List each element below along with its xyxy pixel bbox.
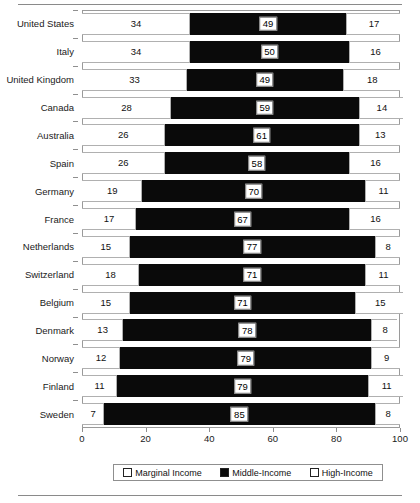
- legend-swatch-open-icon: [310, 468, 319, 477]
- bar-segment-high-income: 14: [359, 97, 404, 119]
- category-label: Belgium: [0, 292, 78, 314]
- legend-label: High-Income: [322, 468, 373, 478]
- category-label: Italy: [0, 41, 78, 63]
- category-label: Norway: [0, 347, 78, 369]
- bar-segment-middle-income: 61: [165, 124, 359, 146]
- category-tick: [73, 233, 78, 234]
- bar-value-marginal-income: 7: [90, 409, 95, 419]
- category-label: France: [0, 208, 78, 230]
- bar-segment-middle-income: 71: [130, 292, 356, 314]
- bar-segment-high-income: 11: [368, 375, 403, 397]
- bar-value-marginal-income: 15: [101, 298, 112, 308]
- bar-value-middle-income: 85: [231, 407, 249, 422]
- bar-value-high-income: 9: [384, 354, 389, 364]
- bar-value-middle-income: 78: [239, 323, 257, 338]
- bar-value-marginal-income: 11: [95, 381, 105, 391]
- bar-value-marginal-income: 26: [118, 159, 129, 169]
- bar-segment-marginal-income: 34: [82, 41, 190, 63]
- bar-segment-high-income: 15: [355, 292, 403, 314]
- chart-legend: Marginal IncomeMiddle-IncomeHigh-Income: [113, 464, 383, 481]
- bar-value-middle-income: 77: [243, 240, 261, 255]
- bar-value-high-income: 13: [375, 131, 386, 141]
- category-tick: [73, 38, 78, 39]
- bar-value-marginal-income: 17: [104, 214, 115, 224]
- bar-value-high-income: 18: [367, 75, 378, 85]
- category-tick: [73, 10, 78, 11]
- value-axis-tick: [273, 428, 274, 432]
- category-label: Finland: [0, 375, 78, 397]
- table-row: 197011: [82, 180, 400, 202]
- bar-segment-high-income: 8: [375, 403, 400, 425]
- bar-segment-marginal-income: 26: [82, 152, 165, 174]
- bar-segment-middle-income: 59: [171, 97, 359, 119]
- category-label: Germany: [0, 180, 78, 202]
- bar-value-high-income: 15: [375, 298, 386, 308]
- category-tick: [73, 317, 78, 318]
- bar-value-high-income: 16: [370, 47, 381, 57]
- bar-segment-high-income: 13: [359, 124, 400, 146]
- category-tick: [73, 205, 78, 206]
- bar-segment-high-income: 18: [343, 69, 400, 91]
- bar-segment-middle-income: 79: [120, 347, 371, 369]
- category-label: Spain: [0, 152, 78, 174]
- category-label: Sweden: [0, 403, 78, 425]
- category-tick: [73, 177, 78, 178]
- value-axis-tick-label: 0: [79, 433, 84, 444]
- bar-rows: 3449173450163349182859142661132658161970…: [82, 10, 400, 428]
- bar-value-middle-income: 67: [234, 212, 252, 227]
- bar-segment-middle-income: 58: [165, 152, 349, 174]
- bar-segment-high-income: 8: [371, 319, 396, 341]
- legend-item[interactable]: High-Income: [310, 468, 373, 478]
- bar-value-high-income: 11: [379, 186, 389, 196]
- bar-value-middle-income: 49: [259, 17, 277, 32]
- bar-segment-high-income: 11: [365, 264, 400, 286]
- bar-value-high-income: 11: [379, 270, 389, 280]
- category-tick: [73, 400, 78, 401]
- table-row: 15778: [82, 236, 400, 258]
- bar-segment-marginal-income: 15: [82, 292, 130, 314]
- bar-segment-marginal-income: 12: [82, 347, 120, 369]
- table-row: 12799: [82, 347, 400, 369]
- bar-segment-high-income: 8: [375, 236, 400, 258]
- bar-segment-middle-income: 71: [139, 264, 365, 286]
- bar-value-marginal-income: 34: [131, 19, 142, 29]
- category-tick: [73, 94, 78, 95]
- bar-segment-middle-income: 67: [136, 208, 349, 230]
- bar-segment-middle-income: 77: [130, 236, 375, 258]
- table-row: 187111: [82, 264, 400, 286]
- bar-value-middle-income: 59: [256, 100, 274, 115]
- category-tick: [73, 289, 78, 290]
- legend-item[interactable]: Marginal Income: [123, 468, 202, 478]
- bar-value-marginal-income: 18: [105, 270, 116, 280]
- table-row: 13788: [82, 319, 400, 341]
- table-row: 334918: [82, 69, 400, 91]
- legend-swatch-open-icon: [123, 468, 132, 477]
- legend-swatch-filled-icon: [220, 468, 229, 477]
- category-label: United Kingdom: [0, 69, 78, 91]
- legend-item[interactable]: Middle-Income: [220, 468, 291, 478]
- category-label: Denmark: [0, 319, 78, 341]
- value-axis-tick-label: 20: [140, 433, 151, 444]
- value-axis-tick-label: 60: [268, 433, 279, 444]
- category-tick: [73, 261, 78, 262]
- bar-segment-high-income: 16: [349, 152, 400, 174]
- value-axis-tick: [146, 428, 147, 432]
- bar-segment-high-income: 16: [349, 208, 400, 230]
- category-label: United States: [0, 13, 78, 35]
- category-axis: United StatesItalyUnited KingdomCanadaAu…: [0, 10, 78, 428]
- bar-value-marginal-income: 26: [118, 131, 129, 141]
- bar-value-middle-income: 70: [245, 184, 263, 199]
- value-axis-tick: [82, 428, 83, 432]
- table-row: 265816: [82, 152, 400, 174]
- bar-value-middle-income: 58: [248, 156, 266, 171]
- table-row: 176716: [82, 208, 400, 230]
- bar-segment-middle-income: 79: [117, 375, 368, 397]
- value-axis-tick-label: 80: [331, 433, 342, 444]
- bar-value-middle-income: 49: [256, 72, 274, 87]
- category-tick: [73, 66, 78, 67]
- bar-segment-high-income: 17: [346, 13, 400, 35]
- bar-segment-high-income: 11: [365, 180, 400, 202]
- value-axis-tick-label: 100: [392, 433, 408, 444]
- bar-value-middle-income: 61: [253, 128, 271, 143]
- bar-value-high-income: 16: [370, 214, 381, 224]
